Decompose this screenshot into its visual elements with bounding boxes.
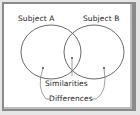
differences-pointer-b (92, 68, 105, 99)
label-subject-a: Subject A (18, 14, 54, 23)
label-differences: Differences (49, 94, 93, 103)
label-similarities: Similarities (45, 79, 88, 88)
label-subject-b: Subject B (83, 14, 119, 23)
circle-subject-b (64, 25, 124, 79)
